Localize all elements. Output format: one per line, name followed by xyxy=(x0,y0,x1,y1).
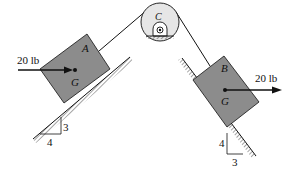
block-a-g-label: G xyxy=(71,76,79,88)
force-b-label: 20 lb xyxy=(255,72,278,84)
slope-b-rise: 4 xyxy=(219,137,225,149)
block-b: B G xyxy=(193,56,259,127)
pulley-c-label: C xyxy=(155,11,162,22)
slope-a-rise: 3 xyxy=(63,121,69,133)
slope-a-run: 4 xyxy=(47,136,53,148)
center-of-gravity-a xyxy=(73,68,77,72)
block-a: A G xyxy=(40,34,110,103)
block-b-g-label: G xyxy=(221,95,229,107)
pulley-c: C xyxy=(141,3,179,41)
force-a-label: 20 lb xyxy=(17,54,40,66)
block-b-label: B xyxy=(221,62,228,74)
diagram-canvas: 3 4 A G 20 lb C 4 3 xyxy=(0,0,298,177)
block-a-label: A xyxy=(81,42,89,54)
slope-b-run: 3 xyxy=(232,156,238,168)
